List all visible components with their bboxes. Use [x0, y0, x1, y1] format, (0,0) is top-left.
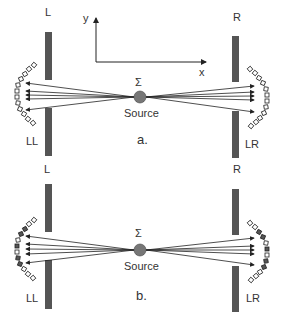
right-wall-label: R [233, 163, 241, 175]
left-rays [26, 236, 134, 263]
right-rays [146, 86, 254, 112]
source-symbol: Σ [135, 227, 142, 239]
left-detector-arc [15, 62, 37, 126]
source-label: Source [124, 107, 159, 119]
left-wall-upper [45, 32, 52, 80]
panel-b: L R [15, 163, 269, 312]
source-dot [134, 91, 146, 103]
coordinate-axes: y x [83, 12, 206, 78]
left-detector-label: LL [26, 292, 38, 304]
panel-caption: b. [136, 288, 147, 303]
source-label: Source [124, 260, 159, 272]
left-wall-label: L [44, 163, 50, 175]
left-wall-upper [45, 184, 52, 232]
right-wall-lower [232, 111, 239, 158]
source-dot [134, 244, 146, 256]
x-axis-label: x [199, 66, 205, 78]
right-detector-arc [247, 66, 269, 129]
right-detector-label: LR [246, 292, 260, 304]
left-rays [26, 83, 134, 110]
right-wall-lower [232, 266, 239, 312]
right-wall-upper [232, 36, 239, 82]
left-wall-lower [45, 108, 52, 156]
left-wall-label: L [45, 6, 51, 18]
right-detector-label: LR [245, 138, 259, 150]
panel-a: L R [15, 6, 269, 158]
diagram-canvas: y x L R [0, 0, 285, 321]
right-rays [146, 238, 254, 265]
right-detector-arc [247, 220, 269, 283]
y-axis-label: y [83, 12, 89, 24]
right-wall-upper [232, 189, 239, 235]
source-symbol: Σ [135, 76, 142, 88]
left-wall-lower [45, 260, 52, 309]
left-detector-label: LL [26, 135, 38, 147]
panel-caption: a. [137, 132, 148, 147]
right-wall-label: R [233, 11, 241, 23]
